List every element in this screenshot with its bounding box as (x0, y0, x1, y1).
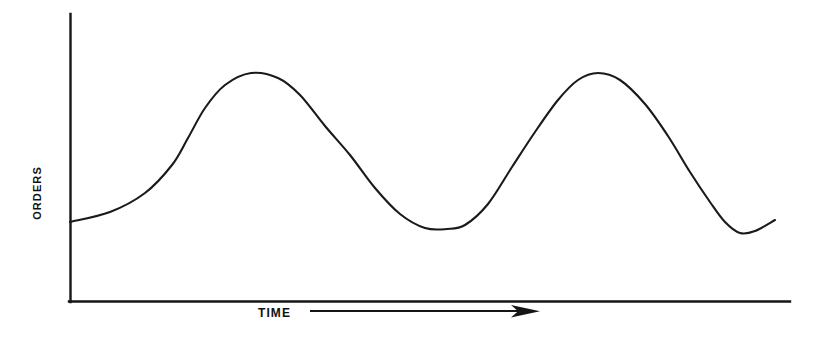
orders-vs-time-line-chart: ORDERS TIME (0, 0, 822, 338)
x-axis-title: TIME (258, 306, 291, 320)
chart-background (0, 0, 822, 338)
y-axis-title: ORDERS (31, 166, 43, 220)
chart-figure: ORDERS TIME (0, 0, 822, 338)
